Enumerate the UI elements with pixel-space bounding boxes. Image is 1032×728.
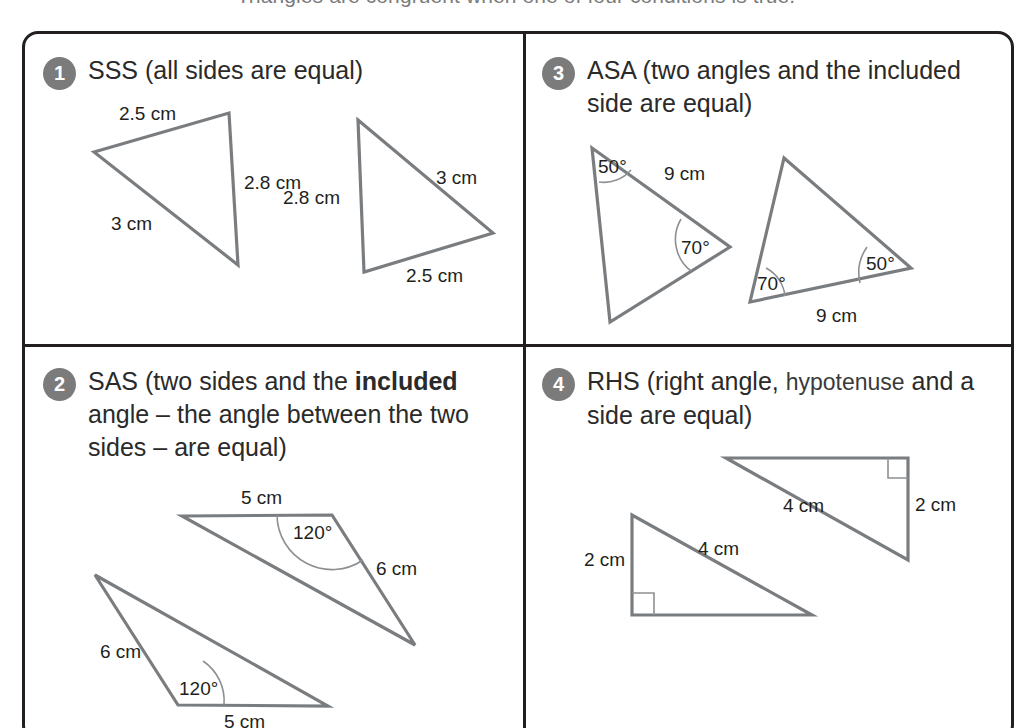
right-angle-marker-rhs-lower xyxy=(632,593,654,615)
panel-asa: 3 ASA (two angles and the included side … xyxy=(526,34,1014,344)
label-asa-right-70deg: 70° xyxy=(757,273,786,294)
label-asa-left-50deg: 50° xyxy=(598,156,627,177)
figure-rhs: 2 cm 4 cm 2 cm 4 cm xyxy=(526,347,1014,728)
triangle-sss-left xyxy=(94,113,238,265)
panel-sss: 1 SSS (all sides are equal) 2.5 cm 2.8 c… xyxy=(25,34,523,344)
panel-sas: 2 SAS (two sides and the included angle … xyxy=(25,347,523,728)
label-sas-lower-5cm: 5 cm xyxy=(224,711,265,728)
label-sas-upper-6cm: 6 cm xyxy=(376,558,417,579)
right-angle-marker-rhs-upper xyxy=(888,458,908,478)
label-sss-right-3cm: 3 cm xyxy=(436,167,477,188)
label-sas-lower-6cm: 6 cm xyxy=(100,641,141,662)
label-sas-upper-5cm: 5 cm xyxy=(241,487,282,508)
label-rhs-upper-4cm: 4 cm xyxy=(783,495,824,516)
congruence-conditions-page: Triangles are congruent when one of four… xyxy=(0,0,1032,728)
label-rhs-upper-2cm: 2 cm xyxy=(915,494,956,515)
label-sas-upper-120deg: 120° xyxy=(293,522,332,543)
label-asa-right-50deg: 50° xyxy=(866,253,895,274)
label-sss-right-2_5cm: 2.5 cm xyxy=(406,265,463,286)
figure-asa: 50° 9 cm 70° 70° 50° 9 cm xyxy=(526,34,1014,344)
figure-sas: 5 cm 120° 6 cm 6 cm 120° 5 cm xyxy=(25,347,523,728)
label-rhs-lower-4cm: 4 cm xyxy=(698,538,739,559)
figure-sss: 2.5 cm 2.8 cm 3 cm 3 cm 2.8 cm 2.5 cm xyxy=(25,34,523,344)
triangle-sss-right xyxy=(358,120,493,272)
label-rhs-lower-2cm: 2 cm xyxy=(584,549,625,570)
label-sss-right-2_8cm: 2.8 cm xyxy=(283,187,340,208)
label-sas-lower-120deg: 120° xyxy=(179,678,218,699)
panel-rhs: 4 RHS (right angle, hypotenuse and a sid… xyxy=(526,347,1014,728)
label-asa-left-9cm: 9 cm xyxy=(664,163,705,184)
intro-sentence: Triangles are congruent when one of four… xyxy=(0,0,1032,9)
label-asa-right-9cm: 9 cm xyxy=(816,305,857,326)
label-sss-left-2_5cm: 2.5 cm xyxy=(119,103,176,124)
triangle-rhs-lower xyxy=(632,515,812,615)
label-asa-left-70deg: 70° xyxy=(681,237,710,258)
label-sss-left-3cm: 3 cm xyxy=(111,213,152,234)
